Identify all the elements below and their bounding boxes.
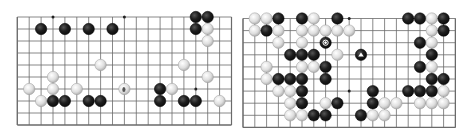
go-diagram: [0, 0, 472, 135]
black-stone: [190, 95, 201, 106]
star-point: [123, 16, 126, 19]
black-stone: [285, 73, 296, 84]
black-stone: [367, 98, 378, 109]
white-stone: [438, 85, 449, 96]
white-stone: [308, 25, 319, 36]
black-stone: [426, 73, 437, 84]
white-stone: [426, 13, 437, 24]
black-stone: [296, 13, 307, 24]
white-stone: [119, 83, 130, 94]
black-stone: [47, 95, 58, 106]
white-stone: [414, 98, 425, 109]
white-stone: [273, 85, 284, 96]
black-stone: [296, 49, 307, 60]
black-stone: [320, 73, 331, 84]
white-stone: [202, 23, 213, 34]
black-stone: [438, 73, 449, 84]
black-stone: [426, 85, 437, 96]
white-stone: [261, 61, 272, 72]
black-stone: [296, 73, 307, 84]
white-stone: [379, 98, 390, 109]
white-stone: [202, 35, 213, 46]
white-stone: [285, 98, 296, 109]
white-stone: [308, 61, 319, 72]
white-stone: [308, 13, 319, 24]
white-stone: [391, 98, 402, 109]
white-stone: [438, 98, 449, 109]
black-stone: [355, 110, 366, 121]
black-stone: [154, 83, 165, 94]
black-stone: [95, 95, 106, 106]
black-stone: [414, 37, 425, 48]
black-stone: [190, 11, 201, 22]
white-stone: [296, 61, 307, 72]
star-point: [194, 88, 197, 91]
black-stone: [320, 110, 331, 121]
white-stone: [367, 110, 378, 121]
black-stone: [296, 85, 307, 96]
black-stone: [273, 73, 284, 84]
white-stone: [426, 37, 437, 48]
white-stone: [166, 83, 177, 94]
white-stone: [249, 25, 260, 36]
black-stone: [308, 110, 319, 121]
black-stone: [285, 49, 296, 60]
black-stone: [367, 85, 378, 96]
white-stone: [214, 95, 225, 106]
black-stone: [83, 95, 94, 106]
black-stone: [320, 37, 331, 48]
black-stone: [414, 13, 425, 24]
black-stone: [107, 23, 118, 34]
white-stone: [332, 25, 343, 36]
white-stone: [344, 25, 355, 36]
star-point: [348, 90, 351, 93]
black-stone: [355, 49, 366, 60]
black-stone: [308, 49, 319, 60]
white-stone: [95, 59, 106, 70]
black-stone: [273, 13, 284, 24]
black-stone: [438, 25, 449, 36]
white-stone: [332, 49, 343, 60]
white-stone: [178, 59, 189, 70]
white-stone: [71, 83, 82, 94]
white-stone: [296, 110, 307, 121]
black-stone: [178, 95, 189, 106]
black-stone: [35, 23, 46, 34]
black-stone: [59, 95, 70, 106]
black-stone: [426, 49, 437, 60]
white-stone: [296, 25, 307, 36]
white-stone: [285, 110, 296, 121]
white-stone: [426, 61, 437, 72]
black-stone: [320, 61, 331, 72]
black-stone: [414, 85, 425, 96]
white-stone: [261, 13, 272, 24]
black-stone: [154, 95, 165, 106]
black-stone: [202, 11, 213, 22]
go-board-right: [243, 13, 455, 128]
star-point: [348, 17, 351, 20]
white-stone: [249, 13, 260, 24]
black-stone: [332, 13, 343, 24]
white-stone: [426, 98, 437, 109]
black-stone: [261, 25, 272, 36]
black-stone: [83, 23, 94, 34]
white-stone: [296, 37, 307, 48]
black-stone: [414, 61, 425, 72]
black-stone: [403, 13, 414, 24]
white-stone: [35, 95, 46, 106]
white-stone: [24, 83, 35, 94]
go-board-left: [17, 11, 231, 125]
black-stone: [438, 13, 449, 24]
white-stone: [320, 98, 331, 109]
white-stone: [47, 71, 58, 82]
white-stone: [285, 85, 296, 96]
white-stone: [426, 25, 437, 36]
white-stone: [379, 110, 390, 121]
white-stone: [273, 37, 284, 48]
black-stone: [190, 23, 201, 34]
white-stone: [202, 71, 213, 82]
black-stone: [59, 23, 70, 34]
black-stone: [403, 85, 414, 96]
white-stone: [261, 73, 272, 84]
white-stone: [273, 25, 284, 36]
